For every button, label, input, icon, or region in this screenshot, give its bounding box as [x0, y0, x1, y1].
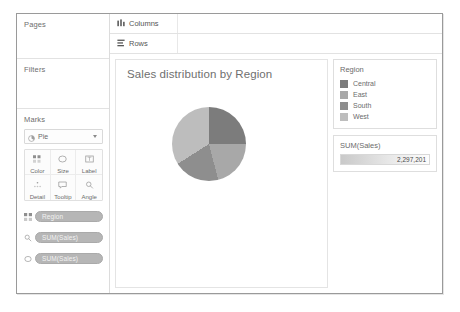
pill-chip[interactable]: Region [35, 211, 103, 222]
marks-card: Marks Pie [17, 109, 109, 293]
marks-pill-region[interactable]: Region [24, 207, 103, 225]
legend-item[interactable]: Central [340, 78, 430, 89]
mark-type-value: Pie [38, 133, 93, 140]
legend-item[interactable]: South [340, 100, 430, 111]
columns-shelf-header: Columns [110, 14, 178, 33]
pie-chart[interactable] [172, 107, 246, 181]
legend-swatch [340, 80, 348, 88]
marks-pill-list: Region SUM(Sales) [24, 207, 103, 267]
legend-item-label: Central [353, 80, 376, 87]
legend-item-label: South [353, 102, 371, 109]
angle-icon [85, 175, 94, 193]
marks-angle-button[interactable]: Angle [76, 175, 102, 200]
size-icon [24, 249, 32, 267]
marks-label-button[interactable]: Label [76, 150, 102, 175]
marks-tooltip-button[interactable]: Tooltip [51, 175, 77, 200]
pages-shelf-label: Pages [24, 20, 109, 29]
columns-shelf-dropzone[interactable] [178, 14, 442, 33]
legend-item-label: East [353, 91, 367, 98]
rows-shelf-header: Rows [110, 34, 178, 53]
color-icon [24, 207, 32, 225]
filters-shelf[interactable]: Filters [17, 59, 109, 109]
legend-item-label: West [353, 113, 369, 120]
viz-canvas[interactable]: Sales distribution by Region [115, 59, 328, 288]
pages-shelf[interactable]: Pages [17, 14, 109, 59]
legend-item[interactable]: West [340, 111, 430, 122]
rows-shelf-dropzone[interactable] [178, 34, 442, 53]
marks-angle-label: Angle [81, 194, 96, 201]
size-legend-gradient[interactable]: 2,297,201 [340, 154, 430, 165]
pill-chip[interactable]: SUM(Sales) [35, 253, 103, 264]
size-icon [58, 149, 67, 167]
marks-button-grid: Color Size [24, 149, 103, 201]
columns-shelf[interactable]: Columns [110, 14, 442, 34]
label-icon [85, 149, 94, 167]
rows-icon [117, 39, 125, 49]
marks-pill-size-sales[interactable]: SUM(Sales) [24, 249, 103, 267]
pill-chip[interactable]: SUM(Sales) [35, 232, 103, 243]
rows-shelf-label: Rows [129, 39, 148, 48]
mark-type-dropdown[interactable]: Pie [24, 129, 103, 144]
marks-tooltip-label: Tooltip [54, 194, 71, 201]
color-legend-title: Region [340, 65, 430, 74]
tooltip-icon [58, 175, 67, 193]
marks-pill-angle-sales[interactable]: SUM(Sales) [24, 228, 103, 246]
color-legend: Region Central East South [333, 59, 437, 129]
rows-shelf[interactable]: Rows [110, 34, 442, 54]
marks-size-button[interactable]: Size [51, 150, 77, 175]
legend-swatch [340, 113, 348, 121]
columns-icon [117, 19, 125, 29]
pill-label: SUM(Sales) [42, 234, 78, 241]
pill-label: Region [42, 213, 63, 220]
legend-swatch [340, 102, 348, 110]
tableau-worksheet-window: Pages Filters Marks Pie [16, 13, 443, 294]
color-icon [33, 149, 42, 167]
marks-detail-button[interactable]: Detail [25, 175, 51, 200]
size-legend-title: SUM(Sales) [340, 141, 430, 150]
legend-column: Region Central East South [333, 59, 437, 288]
pie-icon [28, 128, 35, 146]
columns-shelf-label: Columns [129, 19, 159, 28]
chevron-down-icon [93, 135, 97, 138]
pie-chart-slices[interactable] [172, 107, 246, 181]
pill-label: SUM(Sales) [42, 255, 78, 262]
size-legend-value: 2,297,201 [397, 156, 426, 163]
detail-icon [33, 175, 42, 193]
marks-detail-label: Detail [30, 194, 45, 201]
page-title: Sales distribution by Region [127, 68, 272, 80]
legend-item[interactable]: East [340, 89, 430, 100]
main-region: Columns Rows Sales distributio [110, 14, 442, 293]
sidebar: Pages Filters Marks Pie [17, 14, 110, 293]
marks-color-button[interactable]: Color [25, 150, 51, 175]
angle-icon [24, 228, 32, 246]
legend-swatch [340, 91, 348, 99]
size-legend: SUM(Sales) 2,297,201 [333, 135, 437, 172]
marks-card-label: Marks [24, 115, 109, 124]
filters-shelf-label: Filters [24, 65, 109, 74]
view-area: Sales distribution by Region Region Cent… [110, 54, 442, 293]
